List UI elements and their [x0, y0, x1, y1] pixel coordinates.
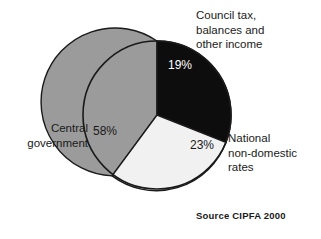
- pie-label-central-government: Central government: [27, 121, 88, 150]
- pie-chart-graphic: [0, 0, 321, 239]
- pie-value-national-non-domestic-rates: 23%: [190, 139, 214, 151]
- pie-label-national-line1: National: [228, 131, 297, 146]
- pie-label-council-tax: Council tax, balances and other income: [196, 8, 264, 52]
- pie-label-central-line2: government: [27, 136, 88, 151]
- pie-label-national-line2: non-domestic: [228, 146, 297, 161]
- pie-label-council-tax-line1: Council tax,: [196, 8, 264, 23]
- pie-value-central-government: 58%: [93, 125, 117, 137]
- pie-label-central-line1: Central: [27, 121, 88, 136]
- pie-chart-figure: Council tax, balances and other income N…: [0, 0, 321, 239]
- pie-label-national-non-domestic-rates: National non-domestic rates: [228, 131, 297, 175]
- pie-value-council-tax: 19%: [168, 59, 192, 71]
- pie-label-national-line3: rates: [228, 160, 297, 175]
- pie-label-council-tax-line3: other income: [196, 37, 264, 52]
- source-note: Source CIPFA 2000: [196, 210, 286, 221]
- pie-label-council-tax-line2: balances and: [196, 23, 264, 38]
